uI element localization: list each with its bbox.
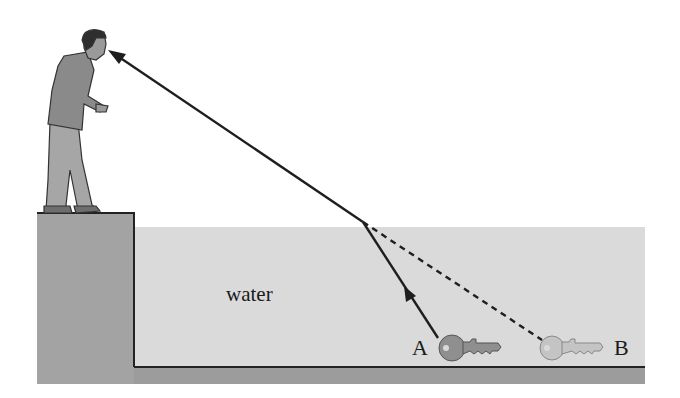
arrowhead-eye-icon xyxy=(108,50,126,64)
water-label: water xyxy=(226,282,273,307)
observer-person xyxy=(44,30,108,213)
label-a: A xyxy=(412,335,428,361)
person-hand xyxy=(96,104,108,112)
ledge xyxy=(37,213,134,384)
refraction-diagram: water A B xyxy=(0,0,680,398)
person-legs xyxy=(46,122,98,210)
label-b: B xyxy=(614,335,629,361)
basin-floor xyxy=(134,367,645,384)
person-shoes xyxy=(44,206,100,213)
person-shirt xyxy=(48,52,104,130)
incident-ray-to-eye xyxy=(116,55,363,222)
